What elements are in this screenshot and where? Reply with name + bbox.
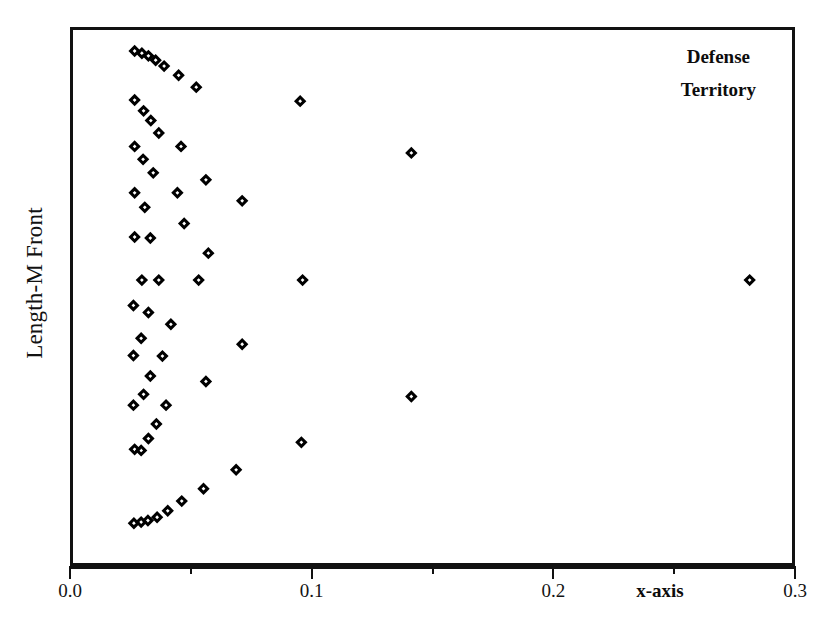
data-point	[236, 338, 248, 350]
data-point	[202, 247, 214, 259]
data-point	[200, 375, 212, 387]
y-axis-label-container: Length-M Front	[0, 0, 70, 566]
data-point	[142, 432, 154, 444]
x-tick-label: 0.1	[300, 580, 324, 602]
y-axis-label: Length-M Front	[22, 207, 48, 359]
data-point	[128, 187, 140, 199]
data-point	[405, 147, 417, 159]
data-point	[171, 187, 183, 199]
data-point	[172, 69, 184, 81]
data-point	[128, 94, 140, 106]
data-point	[160, 399, 172, 411]
data-point	[127, 399, 139, 411]
data-point	[165, 318, 177, 330]
data-point	[144, 232, 156, 244]
data-point	[743, 274, 755, 286]
data-point	[192, 274, 204, 286]
x-axis-label: x-axis	[636, 580, 684, 602]
data-point	[200, 174, 212, 186]
data-point	[156, 350, 168, 362]
data-point	[296, 274, 308, 286]
x-tick-label: 0.2	[541, 580, 565, 602]
data-point	[294, 95, 306, 107]
data-point	[136, 274, 148, 286]
data-point	[295, 436, 307, 448]
data-point	[145, 114, 157, 126]
data-point	[144, 370, 156, 382]
data-point	[230, 464, 242, 476]
x-tick-major	[311, 566, 313, 579]
x-tick-major	[69, 566, 71, 579]
x-tick-label: 0.0	[58, 580, 82, 602]
data-point	[127, 349, 139, 361]
x-tick-minor	[190, 566, 192, 574]
data-point	[137, 105, 149, 117]
data-point	[153, 274, 165, 286]
data-point	[128, 140, 140, 152]
data-point	[128, 231, 140, 243]
data-point	[147, 167, 159, 179]
scatter-points-layer	[73, 30, 792, 563]
data-point	[142, 306, 154, 318]
plot-annotation: Defense Territory	[681, 40, 756, 107]
scatter-series	[73, 30, 798, 569]
plot-annotation-line-1: Defense	[681, 40, 756, 73]
data-point	[190, 81, 202, 93]
x-tick-minor	[432, 566, 434, 574]
data-point	[197, 482, 209, 494]
data-point	[176, 495, 188, 507]
data-point	[153, 127, 165, 139]
data-point	[175, 140, 187, 152]
data-point	[139, 201, 151, 213]
data-point	[162, 505, 174, 517]
x-tick-label: 0.3	[783, 580, 807, 602]
chart-figure: Length-M Front Defense Territory 0.00.10…	[0, 0, 835, 618]
x-tick-minor	[673, 566, 675, 574]
data-point	[150, 418, 162, 430]
data-point	[127, 299, 139, 311]
data-point	[236, 195, 248, 207]
data-point	[135, 332, 147, 344]
plot-annotation-line-2: Territory	[681, 73, 756, 106]
x-tick-major	[794, 566, 796, 579]
data-point	[178, 217, 190, 229]
data-point	[405, 390, 417, 402]
plot-area: Defense Territory	[70, 27, 795, 566]
data-point	[137, 153, 149, 165]
x-tick-major	[552, 566, 554, 579]
data-point	[137, 388, 149, 400]
